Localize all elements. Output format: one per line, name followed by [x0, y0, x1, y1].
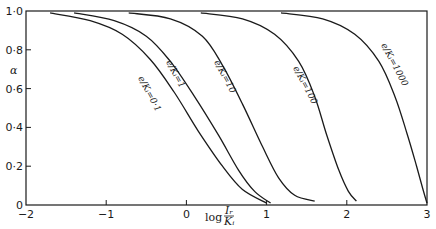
- axis-ticks: −2−1012300·20·40·60·81·0: [6, 5, 431, 221]
- curve-1: [74, 13, 271, 203]
- curve-3: [201, 13, 357, 201]
- curve-labels: e/Kᵢ=0·1e/Kᵢ=1e/Kᵢ=10e/Kᵢ=100e/Kᵢ=1000: [136, 41, 410, 113]
- plot-frame: [26, 11, 427, 205]
- y-tick-label: 1·0: [6, 5, 24, 18]
- y-tick-label: 0·2: [6, 160, 24, 173]
- curve-label: e/Kᵢ=10: [212, 58, 238, 95]
- curve-label: e/Kᵢ=1: [164, 58, 187, 89]
- x-tick-label: 1: [263, 208, 270, 221]
- y-tick-label: 0·8: [6, 44, 24, 57]
- chart-canvas: −2−1012300·20·40·60·81·0 e/Kᵢ=0·1e/Kᵢ=1e…: [0, 0, 436, 229]
- x-tick-label: −1: [98, 208, 114, 221]
- x-axis-label-log: log: [205, 211, 222, 224]
- x-tick-label: 2: [343, 208, 350, 221]
- curve-label: e/Kᵢ=100: [291, 64, 319, 106]
- y-tick-label: 0·4: [6, 121, 24, 134]
- x-axis-label: log Iᵣ Kᵢ: [205, 204, 234, 228]
- x-tick-label: 0: [183, 208, 190, 221]
- curve-4: [281, 13, 427, 203]
- curve-label: e/Kᵢ=0·1: [136, 74, 163, 113]
- y-tick-label: 0·6: [6, 83, 24, 96]
- data-curves: [50, 13, 427, 203]
- y-axis-label: α: [10, 64, 18, 77]
- x-tick-label: 3: [424, 208, 431, 221]
- x-axis-label-denominator: Kᵢ: [223, 215, 234, 228]
- y-tick-label: 0: [16, 199, 23, 212]
- curve-label: e/Kᵢ=1000: [379, 41, 410, 88]
